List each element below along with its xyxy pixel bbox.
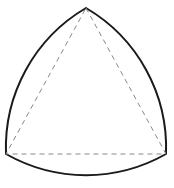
- inscribed-triangle-dashed: [6, 8, 166, 154]
- reuleaux-triangle-diagram: [0, 0, 174, 188]
- reuleaux-outline: [6, 8, 166, 175]
